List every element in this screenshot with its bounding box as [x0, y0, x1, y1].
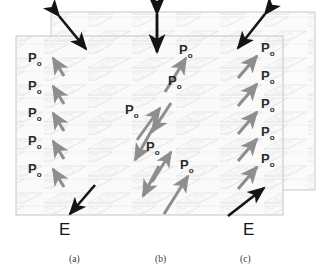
panel-b-p0-label-5: Po [180, 158, 194, 175]
panel-b-p0-label-3: Po [125, 103, 139, 120]
figure-canvas: Po Po Po Po Po Po Po Po Po Po Po Po Po P… [0, 0, 325, 278]
caption-b: (b) [155, 255, 166, 265]
panel-c-p0-label-2: Po [261, 69, 275, 86]
caption-c: (c) [240, 255, 251, 265]
panel-a-field-label: E [59, 221, 70, 238]
caption-a: (a) [69, 255, 80, 265]
panel-c-field-label: E [243, 221, 254, 238]
panel-c-p0-label-5: Po [261, 152, 275, 169]
panel-a-p0-label-2: Po [28, 79, 42, 96]
panel-a-p0-label-3: Po [28, 106, 42, 123]
panel-b-p0-label-4: Po [146, 140, 160, 157]
panel-c-p0-label-4: Po [261, 125, 275, 142]
panel-a-p0-label-5: Po [28, 162, 42, 179]
figure-svg [0, 0, 325, 278]
panel-b-p0-label-1: Po [179, 43, 193, 60]
panel-c-p0-label-3: Po [261, 97, 275, 114]
panel-c-p0-label-1: Po [261, 41, 275, 58]
panel-a-p0-label-4: Po [28, 134, 42, 151]
panel-a-p0-label-1: Po [28, 51, 42, 68]
panel-b-p0-label-2: Po [168, 74, 182, 91]
